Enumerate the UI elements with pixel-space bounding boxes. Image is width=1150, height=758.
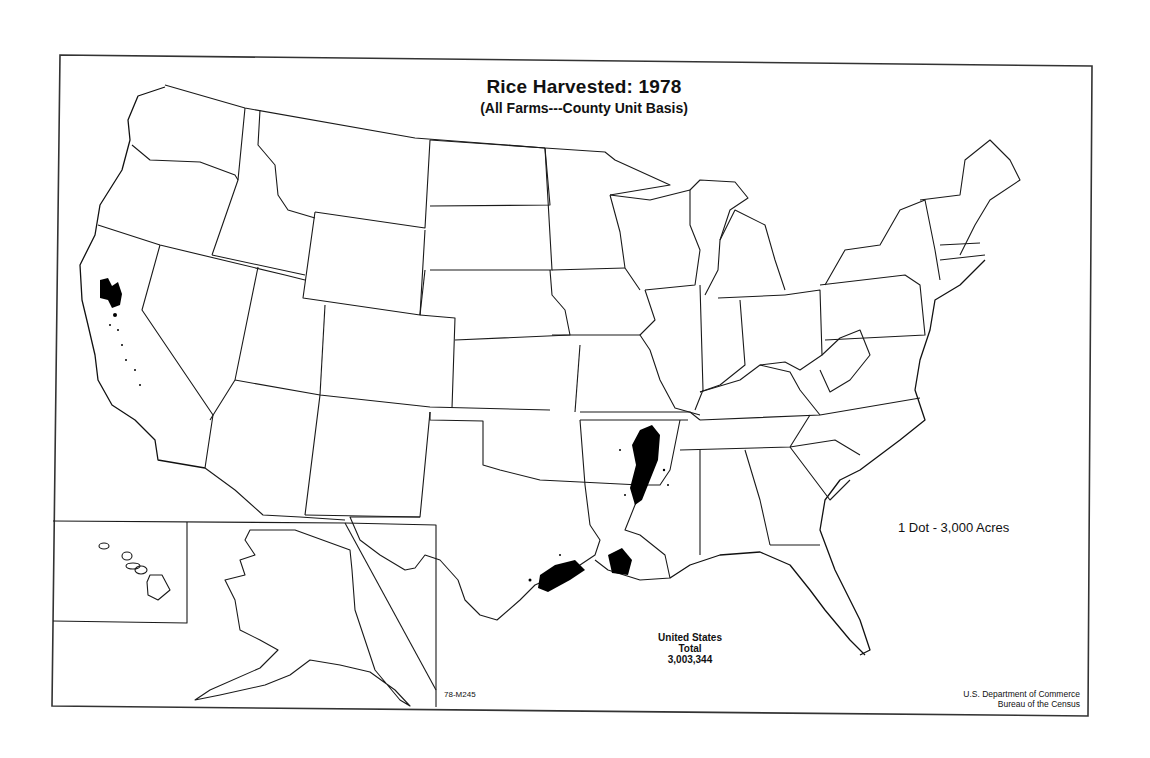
dot-legend: 1 Dot - 3,000 Acres: [898, 520, 1009, 535]
source-credit: U.S. Department of Commerce Bureau of th…: [940, 689, 1080, 709]
us-total-value: 3,003,344: [640, 654, 740, 665]
inset-frames: [53, 521, 436, 707]
alaska-outline: [195, 530, 410, 706]
map-title: Rice Harvested: 1978: [18, 76, 1150, 98]
us-total-label-2: Total: [640, 643, 740, 654]
map-frame: [52, 55, 1092, 716]
us-total-label-1: United States: [640, 632, 740, 643]
map-subtitle: (All Farms---County Unit Basis): [18, 100, 1150, 116]
credit-bureau: Bureau of the Census: [940, 699, 1080, 709]
map-title-block: Rice Harvested: 1978 (All Farms---County…: [0, 76, 1150, 116]
us-total: United States Total 3,003,344: [640, 632, 740, 665]
rice-dots: [100, 278, 669, 592]
map-code: 78-M245: [444, 690, 476, 699]
hawaii-outline: [99, 543, 170, 600]
credit-department: U.S. Department of Commerce: [940, 689, 1080, 699]
